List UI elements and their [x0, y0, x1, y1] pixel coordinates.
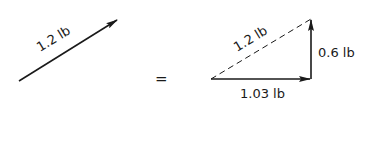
vector-diagram: 1.2 lb = 1.2 lb 1.03 lb 0.6 lb — [0, 0, 374, 163]
hypotenuse-label: 1.2 lb — [231, 23, 270, 55]
resultant-vector-label: 1.2 lb — [34, 23, 73, 55]
vertical-component-label: 0.6 lb — [318, 45, 355, 60]
equals-sign: = — [155, 70, 168, 88]
horizontal-component-label: 1.03 lb — [240, 86, 285, 101]
component-triangle: 1.2 lb 1.03 lb 0.6 lb — [211, 19, 355, 101]
resultant-vector: 1.2 lb — [19, 20, 117, 81]
